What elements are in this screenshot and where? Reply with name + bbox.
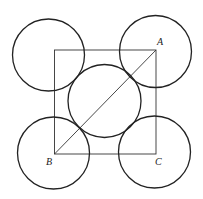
circle-top-right: [120, 16, 192, 88]
point-label-b: B: [46, 156, 52, 167]
circle-bottom-right: [119, 116, 191, 188]
circle-top-left: [13, 19, 85, 91]
point-label-c: C: [155, 156, 162, 167]
point-label-a: A: [156, 36, 164, 47]
circle-center: [68, 65, 141, 138]
circle-bottom-left: [18, 117, 90, 189]
geometry-diagram: A B C: [0, 0, 203, 199]
